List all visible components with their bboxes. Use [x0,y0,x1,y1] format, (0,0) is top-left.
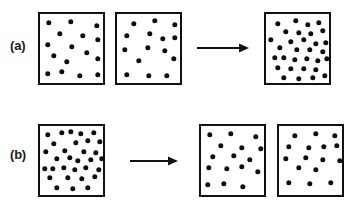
gas-particle [67,155,72,160]
gas-particle [305,22,310,27]
gas-particle [320,28,325,33]
gas-particle [172,22,177,27]
gas-particle [54,185,59,190]
gas-particle [162,48,167,53]
gas-particle [293,18,298,23]
gas-particle [316,20,321,25]
gas-particle [206,165,211,170]
gas-particle [315,58,320,63]
gas-particle [320,157,325,162]
gas-particle [313,167,318,172]
gas-particle [145,45,150,50]
gas-particle [51,141,56,146]
gas-particle [73,140,78,145]
gas-particle [324,56,329,61]
gas-particle [277,45,282,50]
gas-particle [50,166,55,171]
gas-particle [59,69,64,74]
gas-particle [255,169,260,174]
gas-particle [45,71,50,76]
gas-particle [286,144,291,149]
gas-particle [337,158,342,163]
gas-particle [61,165,66,170]
gas-particle [80,33,85,38]
gas-particle [122,47,127,52]
gas-container-b-box-1 [38,124,105,197]
gas-particle [301,66,306,71]
gas-particle [275,65,280,70]
gas-particle [268,37,273,42]
gas-particle [207,132,212,137]
gas-particle [131,21,136,26]
gas-particle [95,56,100,61]
gas-particle [218,143,223,148]
gas-particle [296,76,301,81]
gas-particle [323,40,328,45]
gas-particle [303,155,308,160]
gas-particle [332,133,337,138]
gas-particle [292,133,297,138]
gas-particle [205,182,210,187]
gas-particle [247,157,252,162]
process-arrow-a-arrow [197,42,249,54]
gas-particle [47,175,52,180]
gas-particle [88,157,93,162]
gas-particle [296,30,301,35]
gas-particle [294,47,299,52]
gas-particle [313,131,318,136]
gas-particle [59,130,64,135]
gas-particle [258,146,263,151]
gas-particle [306,145,311,150]
gas-particle [313,41,318,46]
gas-particle [272,55,277,60]
gas-particle [281,55,286,60]
gas-container-a-box-3 [264,12,331,85]
row-label-row-b: (b) [10,147,26,162]
gas-particle [95,37,100,42]
gas-particle [231,153,236,158]
gas-particle [97,139,102,144]
gas-particle [57,31,62,36]
gas-particle [283,29,288,34]
gas-particle [46,20,51,25]
gas-particle [62,148,67,153]
gas-container-a-box-1 [38,12,105,85]
gas-particle [95,72,100,77]
gas-particle [307,181,312,186]
gas-particle [85,138,90,143]
gas-particle [224,166,229,171]
gas-particle [160,36,165,41]
gas-particle [283,156,288,161]
gas-particle [81,149,86,154]
gas-particle [328,180,333,185]
gas-particle [65,175,70,180]
gas-particle [239,145,244,150]
gas-particle [64,59,69,64]
gas-particle [210,154,215,159]
gas-particle [240,184,245,189]
gas-particle [45,42,50,47]
gas-particle [99,156,104,161]
gas-container-a-box-2 [115,12,182,85]
gas-particle [334,143,339,148]
gas-particle [68,129,73,134]
process-arrow-b-arrow [130,155,178,167]
gas-particle [42,166,47,171]
gas-particle [77,73,82,78]
gas-particle [275,21,280,26]
gas-particle [281,75,286,80]
gas-particle [307,47,312,52]
gas-container-b-box-3 [277,124,344,197]
gas-particle [320,49,325,54]
gas-particle [228,131,233,136]
gas-particle [286,180,291,185]
gas-particle [172,35,177,40]
gas-particle [91,130,96,135]
gas-particle [68,19,73,24]
gas-particle [92,174,97,179]
gas-particle [292,57,297,62]
gas-particle [288,39,293,44]
gas-particle [75,158,80,163]
gas-container-b-box-2 [199,124,266,197]
gas-particle [51,53,56,58]
